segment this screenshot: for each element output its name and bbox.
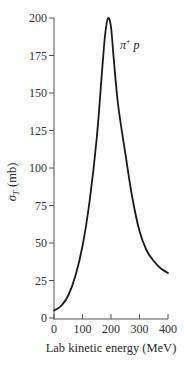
y-tick-label: 100 xyxy=(29,161,47,175)
x-tick-label: 200 xyxy=(102,322,120,336)
x-axis-label: Lab kinetic energy (MeV) xyxy=(46,341,177,355)
cross-section-chart: 0255075100125150175200 0100200300400 π+ … xyxy=(0,0,184,367)
x-axis-ticks: 0100200300400 xyxy=(51,314,177,336)
x-tick-label: 400 xyxy=(159,322,177,336)
x-tick-label: 300 xyxy=(131,322,149,336)
x-tick-label: 0 xyxy=(51,322,57,336)
y-axis-label: σT (mb) xyxy=(5,163,21,202)
y-tick-label: 75 xyxy=(35,199,47,213)
y-tick-label: 150 xyxy=(29,86,47,100)
y-tick-label: 125 xyxy=(29,124,47,138)
pi-plus-p-curve xyxy=(54,18,168,311)
x-tick-label: 100 xyxy=(74,322,92,336)
series-label-pi-plus-p: π+ p xyxy=(120,37,140,52)
y-tick-label: 175 xyxy=(29,49,47,63)
y-axis-ticks: 0255075100125150175200 xyxy=(29,11,54,325)
y-tick-label: 0 xyxy=(41,311,47,325)
y-tick-label: 50 xyxy=(35,236,47,250)
y-tick-label: 25 xyxy=(35,274,47,288)
y-tick-label: 200 xyxy=(29,11,47,25)
axes xyxy=(53,18,168,319)
